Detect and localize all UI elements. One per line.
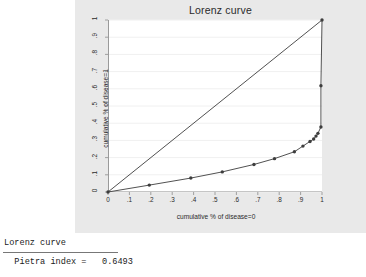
y-tick-9: .9 [91, 27, 98, 45]
y-tick-2: .2 [91, 147, 98, 165]
y-tick-4: .4 [91, 113, 98, 131]
y-axis-title: cumulative % of disease=1 [102, 29, 109, 189]
y-tick-5: .5 [91, 96, 98, 114]
y-tick-0: 0 [91, 182, 98, 200]
x-tick-4: .4 [184, 196, 204, 203]
x-tick-0: 0 [98, 196, 118, 203]
x-tick-10: 1 [312, 196, 332, 203]
x-axis-title: cumulative % of disease=0 [108, 213, 324, 220]
x-tick-9: .9 [291, 196, 311, 203]
x-tick-3: .3 [162, 196, 182, 203]
x-tick-5: .5 [205, 196, 225, 203]
x-tick-8: .8 [269, 196, 289, 203]
x-tick-2: .2 [141, 196, 161, 203]
console-output: Lorenz curve Pietra index = 0.6493 [0, 236, 366, 277]
pietra-index-line: Pietra index = 0.6493 [4, 257, 133, 267]
y-tick-7: .7 [91, 61, 98, 79]
console-divider [3, 252, 118, 253]
x-tick-6: .6 [226, 196, 246, 203]
y-tick-6: .6 [91, 78, 98, 96]
graph-window: Lorenz curve cumulative % of disease=0 c… [75, 0, 366, 233]
y-tick-1: .1 [91, 164, 98, 182]
console-heading: Lorenz curve [4, 238, 66, 248]
x-tick-7: .7 [248, 196, 268, 203]
y-tick-10: 1 [91, 10, 98, 28]
y-tick-8: .8 [91, 44, 98, 62]
x-tick-1: .1 [119, 196, 139, 203]
y-tick-3: .3 [91, 130, 98, 148]
